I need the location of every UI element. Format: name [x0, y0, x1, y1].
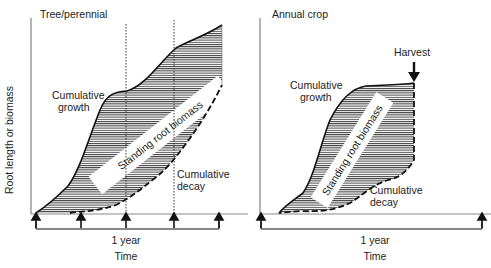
decay-label-annual-2: decay: [370, 196, 399, 208]
panel-tree-perennial: Tree/perennial Standing root biomass Cum…: [31, 8, 248, 262]
panel-annual-crop: Annual crop Standing root biomass Harves…: [257, 8, 491, 262]
growth-label-tree: Cumulative: [52, 89, 105, 101]
sampling-arrows-annual: [257, 213, 486, 228]
period-label-tree: 1 year: [111, 234, 141, 246]
x-axis-label-tree: Time: [115, 250, 138, 262]
y-axis-label: Root length or biomass: [3, 86, 15, 194]
decay-label-tree: Cumulative: [177, 168, 230, 180]
panel-title-tree: Tree/perennial: [40, 8, 107, 20]
root-biomass-diagram: Root length or biomass Tree/perennial St…: [0, 0, 491, 268]
year-bracket: [36, 222, 219, 229]
growth-label-annual-2: growth: [300, 91, 332, 103]
harvest-arrow-icon: [408, 62, 420, 82]
year-bracket-annual: [261, 222, 482, 229]
decay-label-annual: Cumulative: [370, 184, 423, 196]
panel-title-annual: Annual crop: [272, 8, 328, 20]
decay-label-tree-2: decay: [177, 180, 206, 192]
sampling-arrows-tree: [32, 213, 223, 228]
period-label-annual: 1 year: [360, 234, 390, 246]
x-axis-label-annual: Time: [364, 250, 387, 262]
growth-label-tree-2: growth: [58, 101, 90, 113]
harvest-label: Harvest: [394, 46, 430, 58]
growth-label-annual: Cumulative: [290, 79, 343, 91]
